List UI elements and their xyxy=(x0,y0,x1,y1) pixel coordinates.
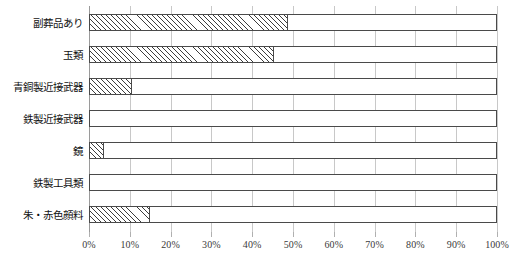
category-label-0: 副葬品あり xyxy=(0,17,83,29)
plot-area xyxy=(89,6,497,232)
x-tick-label-20: 20% xyxy=(161,239,180,251)
category-label-6: 朱・赤色顔料 xyxy=(0,209,83,221)
category-label-1: 玉類 xyxy=(0,49,83,61)
tick-mark-50 xyxy=(293,232,294,237)
x-tick-label-80: 80% xyxy=(406,239,425,251)
category-label-4: 鏡 xyxy=(0,145,83,157)
x-tick-label-30: 30% xyxy=(202,239,221,251)
bar-row-5 xyxy=(89,174,497,191)
category-label-3: 鉄製近接武器 xyxy=(0,113,83,125)
bar-row-1 xyxy=(89,46,497,63)
bar-value-4 xyxy=(89,142,104,159)
gridline-100 xyxy=(497,6,498,232)
tick-mark-40 xyxy=(252,232,253,237)
bar-track-4 xyxy=(89,142,497,159)
bar-value-1 xyxy=(89,46,274,63)
category-label-2: 青銅製近接武器 xyxy=(0,81,83,93)
bar-track-5 xyxy=(89,174,497,191)
tick-mark-60 xyxy=(334,232,335,237)
bar-row-2 xyxy=(89,78,497,95)
x-tick-label-60: 60% xyxy=(324,239,343,251)
tick-mark-70 xyxy=(375,232,376,237)
category-label-5: 鉄製工具類 xyxy=(0,177,83,189)
bar-row-4 xyxy=(89,142,497,159)
x-tick-label-50: 50% xyxy=(284,239,303,251)
tick-mark-80 xyxy=(415,232,416,237)
x-tick-label-40: 40% xyxy=(243,239,262,251)
bar-value-2 xyxy=(89,78,132,95)
bar-chart: 副葬品あり 玉類 青銅製近接武器 鉄製近接武器 鏡 鉄製工具類 朱・赤色顔料 xyxy=(0,0,512,278)
bar-row-6 xyxy=(89,206,497,223)
x-tick-label-90: 90% xyxy=(447,239,466,251)
tick-mark-0 xyxy=(89,232,90,237)
bar-row-3 xyxy=(89,110,497,127)
bar-value-0 xyxy=(89,14,288,31)
x-tick-label-100: 100% xyxy=(485,239,509,251)
bar-track-2 xyxy=(89,78,497,95)
bar-track-6 xyxy=(89,206,497,223)
x-tick-label-10: 10% xyxy=(120,239,139,251)
bar-track-3 xyxy=(89,110,497,127)
bar-value-6 xyxy=(89,206,150,223)
tick-mark-100 xyxy=(497,232,498,237)
tick-mark-90 xyxy=(456,232,457,237)
tick-mark-20 xyxy=(171,232,172,237)
bar-row-0 xyxy=(89,14,497,31)
tick-mark-10 xyxy=(130,232,131,237)
tick-mark-30 xyxy=(211,232,212,237)
x-tick-label-70: 70% xyxy=(365,239,384,251)
x-tick-label-0: 0% xyxy=(82,239,96,251)
